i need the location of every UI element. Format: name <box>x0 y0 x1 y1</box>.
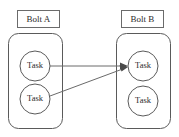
task-node-b2[interactable]: Task <box>128 86 158 116</box>
task-node-a1[interactable]: Task <box>20 51 50 81</box>
bolt-a-label: Bolt A <box>27 14 51 24</box>
task-node-b1[interactable]: Task <box>128 51 158 81</box>
task-node-a2[interactable]: Task <box>20 84 50 114</box>
bolt-group-a[interactable]: Bolt A Task Task <box>9 11 63 129</box>
bolt-group-b[interactable]: Bolt B Task Task <box>117 11 171 129</box>
bolt-b-label: Bolt B <box>131 14 155 24</box>
diagram-canvas: Bolt A Task Task Bolt B Task Task <box>0 0 179 137</box>
task-a1-label: Task <box>27 60 44 70</box>
topology-diagram: Bolt A Task Task Bolt B Task Task <box>0 0 179 137</box>
task-b2-label: Task <box>135 95 152 105</box>
task-b1-label: Task <box>135 60 152 70</box>
task-a2-label: Task <box>27 93 44 103</box>
